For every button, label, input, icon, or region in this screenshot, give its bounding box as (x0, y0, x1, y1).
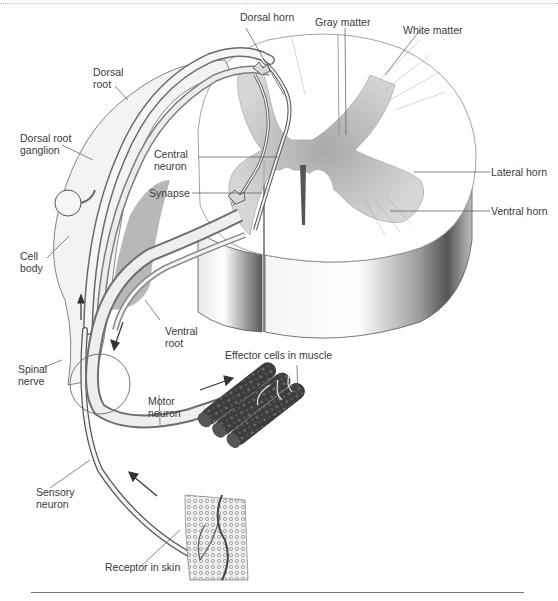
label-dorsal-root: Dorsal root (93, 66, 123, 90)
label-sensory-neuron: Sensory neuron (36, 486, 75, 510)
label-lateral-horn: Lateral horn (491, 166, 547, 178)
skin-receptor (185, 495, 248, 580)
label-central-neuron: Central neuron (154, 148, 188, 172)
label-white-matter: White matter (403, 24, 463, 36)
bottom-rule (31, 592, 524, 593)
label-synapse: Synapse (149, 187, 190, 199)
reflex-arc-illustration (0, 0, 558, 601)
effector-muscle (195, 353, 308, 456)
label-dorsal-horn: Dorsal horn (240, 11, 294, 23)
label-ventral-horn: Ventral horn (491, 205, 548, 217)
label-spinal-nerve: Spinal nerve (18, 363, 47, 387)
label-gray-matter: Gray matter (315, 16, 370, 28)
label-cell-body: Cell body (20, 250, 43, 274)
spinal-cord (198, 34, 476, 338)
label-motor-neuron: Motor neuron (148, 395, 181, 419)
label-dorsal-root-ganglion: Dorsal root ganglion (20, 132, 71, 156)
label-receptor-in-skin: Receptor in skin (105, 561, 180, 573)
label-ventral-root: Ventral root (165, 325, 198, 349)
label-effector-cells: Effector cells in muscle (225, 349, 332, 361)
